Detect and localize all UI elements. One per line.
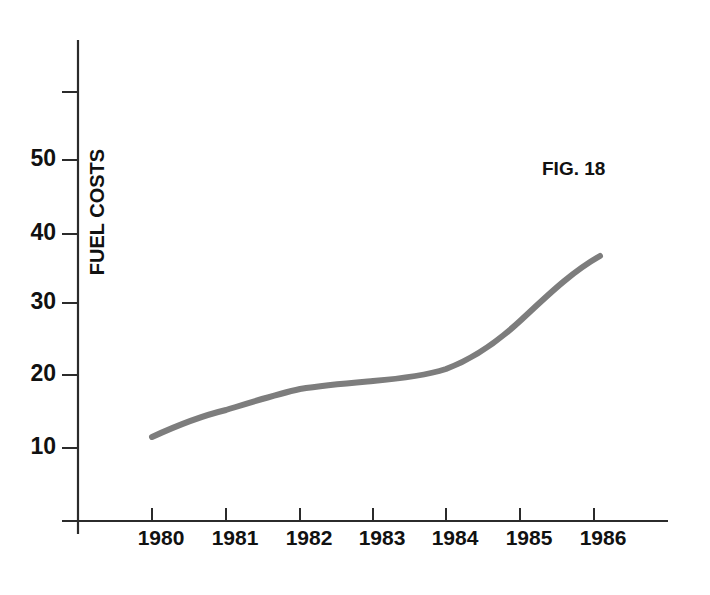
x-tick-label-1981: 1981: [212, 526, 259, 549]
x-tick-label-1982: 1982: [286, 526, 333, 549]
y-tick-label-30: 30: [30, 288, 56, 314]
x-tick-label-1986: 1986: [580, 526, 627, 549]
figure-page: 50 40 30 20 10 1980 1981 1982 1983 1984 …: [0, 0, 710, 595]
x-tick-label-1983: 1983: [359, 526, 406, 549]
y-axis-title: FUEL COSTS: [86, 149, 108, 275]
x-tick-label-1980: 1980: [138, 526, 185, 549]
figure-label: FIG. 18: [542, 158, 605, 179]
y-tick-label-40: 40: [30, 219, 56, 245]
y-tick-label-50: 50: [30, 145, 56, 171]
chart-background: [0, 0, 710, 595]
x-tick-label-1985: 1985: [506, 526, 553, 549]
y-tick-label-20: 20: [30, 360, 56, 386]
x-tick-label-1984: 1984: [432, 526, 479, 549]
fuel-costs-line-chart: 50 40 30 20 10 1980 1981 1982 1983 1984 …: [0, 0, 710, 595]
y-tick-label-10: 10: [30, 433, 56, 459]
